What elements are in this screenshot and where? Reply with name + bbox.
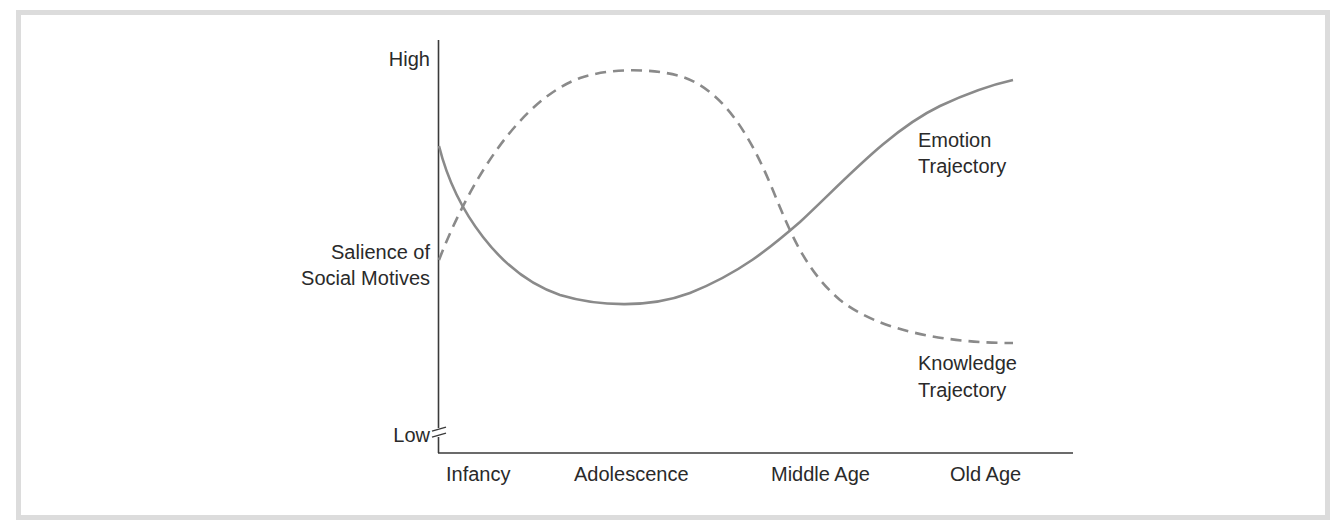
knowledge-trajectory-label-line-2: Trajectory: [918, 378, 1006, 402]
chart-plot-area: [0, 0, 1339, 526]
x-tick-adolescence: Adolescence: [574, 462, 689, 486]
y-tick-low: Low: [370, 423, 430, 447]
x-tick-old-age: Old Age: [950, 462, 1021, 486]
emotion-trajectory-line: [439, 80, 1013, 304]
x-tick-infancy: Infancy: [446, 462, 510, 486]
emotion-trajectory-label-line-2: Trajectory: [918, 154, 1006, 178]
y-axis-title-line-2: Social Motives: [230, 266, 430, 290]
x-tick-middle-age: Middle Age: [771, 462, 870, 486]
knowledge-trajectory-line: [439, 70, 1013, 343]
y-tick-high: High: [370, 47, 430, 71]
axis-break-icon: [432, 427, 446, 437]
knowledge-trajectory-label-line-1: Knowledge: [918, 351, 1017, 375]
emotion-trajectory-label-line-1: Emotion: [918, 128, 991, 152]
y-axis-title-line-1: Salience of: [230, 240, 430, 264]
